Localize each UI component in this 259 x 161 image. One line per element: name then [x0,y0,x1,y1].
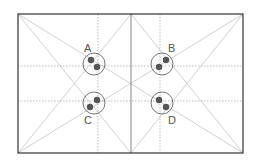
point-c: C [83,92,105,126]
dot-icon [94,64,100,70]
dot-icon [94,97,100,103]
circle-c [83,92,105,114]
label-b: B [168,42,175,54]
diagram-canvas: A B C D [0,0,259,161]
point-b: B [151,42,175,75]
dot-icon [163,104,169,110]
dot-icon [88,57,94,63]
dot-icon [163,57,169,63]
label-a: A [84,42,92,54]
diagonal-guides [18,14,243,153]
label-c: C [84,114,92,126]
dot-icon [156,97,162,103]
dot-icon [87,104,93,110]
composition-grid-diagram: A B C D [0,0,259,161]
point-a: A [83,42,105,75]
dot-icon [156,64,162,70]
circle-a [83,53,105,75]
label-d: D [168,114,176,126]
